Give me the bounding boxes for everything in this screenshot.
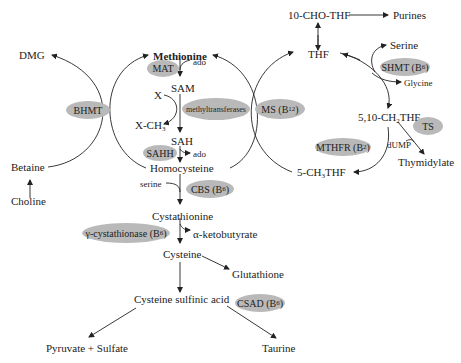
thf-label: THF bbox=[308, 48, 329, 60]
dmg-label: DMG bbox=[19, 49, 45, 61]
thymidylate-label: Thymidylate bbox=[398, 156, 454, 168]
enzyme-bhmt[interactable]: BHMT bbox=[66, 101, 110, 119]
enzyme-sahh[interactable]: SAHH bbox=[143, 145, 177, 161]
homocysteine-label: Homocysteine bbox=[150, 162, 214, 174]
x-ch3-label: X-CH3 bbox=[135, 119, 165, 131]
betaine-label: Betaine bbox=[11, 161, 45, 173]
cysteine-label: Cysteine bbox=[163, 248, 202, 260]
sam-label: SAM bbox=[171, 82, 195, 94]
ch2thf-label: 5,10-CH2THF bbox=[358, 111, 420, 123]
pyruvate-sulfate-label: Pyruvate + Sulfate bbox=[46, 342, 128, 354]
dump-label: dUMP bbox=[387, 139, 411, 151]
glutathione-label: Glutathione bbox=[232, 268, 284, 280]
glycine-label: Glycine bbox=[404, 77, 433, 89]
cho-thf-label: 10-CHO-THF bbox=[288, 9, 350, 21]
serine-label-top: Serine bbox=[390, 39, 418, 51]
taurine-label: Taurine bbox=[262, 342, 295, 354]
x-label: X bbox=[154, 89, 162, 101]
enzyme-shmt[interactable]: SHMT (B6) bbox=[380, 58, 430, 76]
sah-label: SAH bbox=[171, 135, 193, 147]
enzyme-mat[interactable]: MAT bbox=[147, 60, 179, 77]
choline-label: Choline bbox=[11, 195, 46, 207]
ado-label-1: ado bbox=[193, 56, 206, 68]
enzyme-methyltransferases[interactable]: methyltransferases bbox=[182, 98, 250, 120]
purines-label: Purines bbox=[393, 9, 426, 21]
cysteine-sulfinic-acid-label: Cysteine sulfinic acid bbox=[134, 293, 229, 305]
pathway-arrows bbox=[0, 0, 461, 363]
ketobutyrate-label: α-ketobutyrate bbox=[193, 228, 257, 240]
serine-label-low: serine bbox=[140, 178, 162, 190]
enzyme-ms[interactable]: MS (B12) bbox=[255, 99, 305, 119]
enzyme-gamma-cystathionase[interactable]: γ-cystathionase (B6) bbox=[82, 223, 170, 243]
enzyme-cbs[interactable]: CBS (B6) bbox=[186, 180, 234, 198]
enzyme-mthfr[interactable]: MTHFR (B2) bbox=[315, 138, 371, 156]
ch3thf-label: 5-CH3THF bbox=[297, 166, 346, 178]
cystathionine-label: Cystathionine bbox=[152, 210, 213, 222]
ado-label-2: ado bbox=[193, 148, 206, 160]
enzyme-csad[interactable]: CSAD (B6) bbox=[235, 294, 285, 312]
